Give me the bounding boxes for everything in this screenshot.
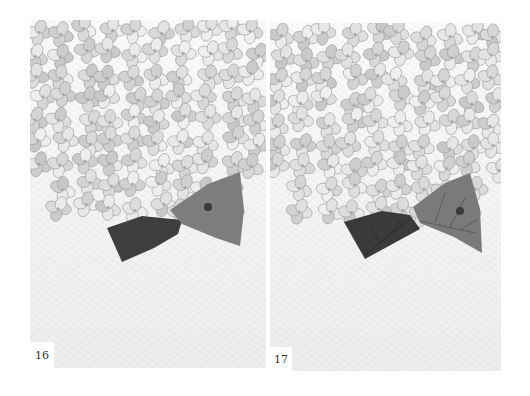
- floret: [438, 43, 466, 71]
- floret: [96, 149, 124, 177]
- floret: [484, 87, 501, 114]
- floret: [454, 67, 482, 94]
- floret: [119, 170, 146, 198]
- floret: [169, 39, 196, 67]
- dark-leaf: [107, 216, 182, 262]
- floret: [316, 152, 344, 180]
- floret: [141, 129, 169, 157]
- floret: [93, 82, 120, 110]
- floret: [309, 84, 337, 112]
- hydrangea-illustration: [270, 23, 501, 371]
- page-16: 16: [30, 20, 266, 368]
- floret: [236, 20, 264, 44]
- floret: [485, 156, 501, 184]
- floret: [121, 147, 148, 175]
- floret: [120, 20, 147, 44]
- floret: [285, 174, 313, 201]
- floret: [405, 154, 433, 182]
- floret: [95, 194, 123, 221]
- floret: [363, 41, 390, 69]
- leaf-spot: [204, 203, 212, 211]
- floret: [316, 175, 343, 203]
- floret: [387, 39, 414, 67]
- floret: [174, 20, 202, 44]
- hydrangea-illustration: [30, 20, 266, 368]
- page-number: 16: [30, 342, 54, 368]
- floret: [270, 23, 295, 49]
- floret: [287, 106, 315, 134]
- floret: [142, 64, 170, 91]
- page-number: 17: [270, 347, 292, 371]
- floret: [270, 44, 298, 72]
- floret: [70, 20, 98, 42]
- leaf-spot: [456, 207, 464, 215]
- floret: [46, 151, 73, 179]
- floret: [285, 198, 313, 226]
- floret: [385, 173, 413, 201]
- page-17: 17: [270, 23, 501, 371]
- floret: [216, 37, 244, 65]
- floret: [479, 132, 501, 159]
- floret: [167, 128, 194, 156]
- floret: [47, 20, 75, 48]
- floret: [432, 154, 459, 182]
- floret: [386, 110, 414, 137]
- floret: [94, 37, 122, 64]
